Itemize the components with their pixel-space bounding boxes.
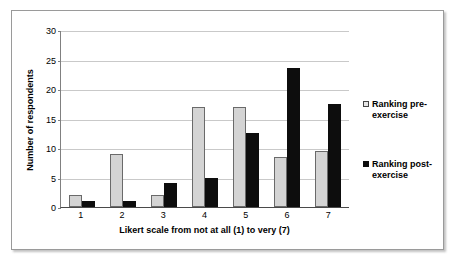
x-axis-tick-label: 4	[184, 210, 225, 220]
bar-pre-exercise	[69, 195, 82, 207]
bar-post-exercise	[205, 178, 218, 208]
bar-group	[61, 31, 102, 207]
bar-group	[184, 31, 225, 207]
bar-post-exercise	[164, 183, 177, 207]
legend-item-ranking-pre-exercise: Ranking pre- exercise	[363, 99, 427, 121]
bar-group	[226, 31, 267, 207]
y-axis-tick-mark	[58, 208, 61, 209]
x-axis-tick-label: 5	[225, 210, 266, 220]
y-axis-title: Number of respondents	[23, 31, 37, 208]
legend-item-ranking-post-exercise: Ranking post- exercise	[363, 159, 432, 181]
bar-pre-exercise	[192, 107, 205, 207]
x-axis-tick-label: 7	[308, 210, 349, 220]
bar-pre-exercise	[274, 157, 287, 207]
x-axis-title: Likert scale from not at all (1) to very…	[60, 225, 349, 235]
bar-post-exercise	[328, 104, 341, 207]
y-axis-tick-label: 10	[46, 145, 56, 154]
filled-square-marker-icon	[363, 161, 369, 167]
x-axis-tick-label: 6	[266, 210, 307, 220]
legend-label-line2: exercise	[372, 110, 408, 120]
x-axis-tick-label: 3	[143, 210, 184, 220]
y-axis-tick-label: 15	[46, 115, 56, 124]
y-axis-tick-label: 30	[46, 27, 56, 36]
bar-pre-exercise	[233, 107, 246, 207]
open-square-marker-icon	[363, 101, 369, 107]
y-axis-tick-label: 5	[51, 174, 56, 183]
bar-pre-exercise	[151, 195, 164, 207]
legend-item-label: Ranking pre- exercise	[372, 99, 427, 121]
bar-group	[102, 31, 143, 207]
bar-group	[308, 31, 349, 207]
bar-pre-exercise	[110, 154, 123, 207]
chart-frame: Number of respondents 051015202530 12345…	[11, 10, 444, 250]
legend-label-line1: Ranking post-	[372, 159, 432, 169]
y-axis-title-label: Number of respondents	[25, 69, 35, 171]
y-axis-tick-label: 20	[46, 86, 56, 95]
bar-group	[267, 31, 308, 207]
bar-post-exercise	[123, 201, 136, 207]
bar-group	[143, 31, 184, 207]
chart-page: Number of respondents 051015202530 12345…	[0, 0, 456, 275]
bar-post-exercise	[82, 201, 95, 207]
bar-series-container	[61, 31, 349, 207]
x-axis-ticks: 1234567	[60, 210, 349, 220]
bar-pre-exercise	[315, 151, 328, 207]
legend-label-line1: Ranking pre-	[372, 99, 427, 109]
x-axis-tick-label: 1	[60, 210, 101, 220]
bar-post-exercise	[246, 133, 259, 207]
legend-label-line2: exercise	[372, 170, 408, 180]
x-axis-tick-label: 2	[101, 210, 142, 220]
chart-legend: Ranking pre- exercise Ranking post- exer…	[361, 31, 441, 208]
plot-area: 051015202530	[60, 31, 349, 208]
y-axis-tick-label: 0	[51, 204, 56, 213]
bar-post-exercise	[287, 68, 300, 207]
legend-item-label: Ranking post- exercise	[372, 159, 432, 181]
y-axis-tick-label: 25	[46, 56, 56, 65]
